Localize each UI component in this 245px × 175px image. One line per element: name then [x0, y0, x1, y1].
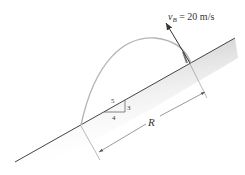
slope-label-vertical: 3	[127, 104, 131, 112]
range-label: R	[147, 116, 155, 128]
projectile-diagram: vB = 20 m/s 5 3 4 R	[0, 0, 245, 175]
slope-label-hyp: 5	[111, 97, 115, 105]
velocity-arrow-icon	[166, 23, 190, 63]
slope-label-horizontal: 4	[112, 114, 116, 122]
ground-shading	[15, 38, 238, 168]
velocity-label: vB = 20 m/s	[168, 11, 214, 24]
